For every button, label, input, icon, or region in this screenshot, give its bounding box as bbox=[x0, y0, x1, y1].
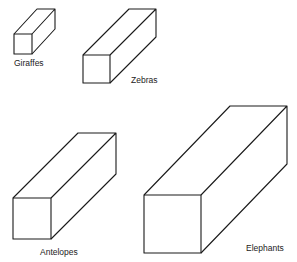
label-antelopes: Antelopes bbox=[40, 247, 78, 257]
label-giraffes: Giraffes bbox=[14, 58, 44, 68]
boxes-diagram bbox=[0, 0, 297, 262]
box-elephants bbox=[144, 106, 287, 253]
label-elephants: Elephants bbox=[246, 243, 284, 253]
box-giraffes bbox=[14, 9, 55, 54]
box-antelopes bbox=[13, 133, 116, 239]
label-zebras: Zebras bbox=[131, 75, 157, 85]
box-zebras bbox=[83, 9, 156, 83]
